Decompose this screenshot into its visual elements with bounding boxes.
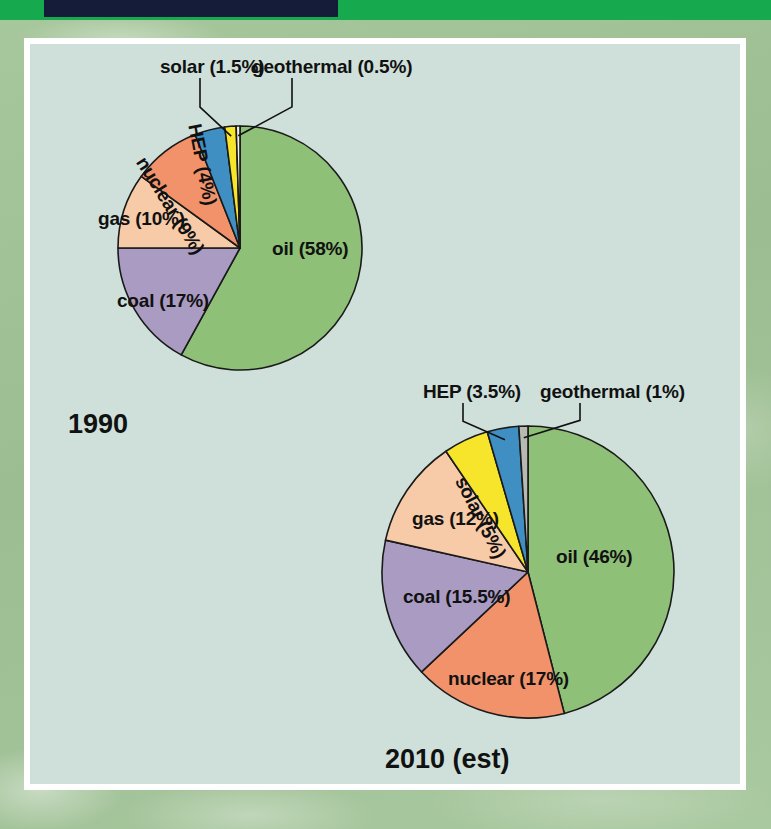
pie-label-HEP: HEP (3.5%) bbox=[423, 381, 521, 403]
pie-label-oil: oil (46%) bbox=[556, 546, 632, 568]
pie-charts-svg bbox=[30, 44, 740, 784]
header-dark-block bbox=[44, 0, 338, 17]
pie-label-oil: oil (58%) bbox=[272, 238, 348, 260]
pie-label-coal: coal (17%) bbox=[117, 290, 209, 312]
chart-title-1990: 1990 bbox=[68, 409, 128, 440]
pie-label-solar: solar (1.5%) bbox=[160, 56, 264, 78]
pie-label-geothermal: geothermal (0.5%) bbox=[252, 56, 412, 78]
pie-label-nuclear: nuclear (17%) bbox=[448, 668, 569, 690]
pie-label-geothermal: geothermal (1%) bbox=[540, 381, 685, 403]
chart-title-2010: 2010 (est) bbox=[385, 744, 510, 775]
chart-panel: oil (58%)coal (17%)gas (10%)nuclear (9%)… bbox=[24, 38, 746, 790]
pie-label-coal: coal (15.5%) bbox=[403, 586, 510, 608]
